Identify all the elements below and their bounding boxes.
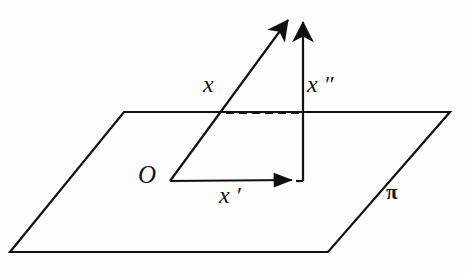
vector-x-prime-label: x ′: [219, 183, 241, 207]
vector-x-double-prime-label: x ″: [307, 72, 334, 96]
geometry-figure: x x ″ x ′ O π: [0, 0, 466, 274]
vector-x-line: [170, 20, 288, 181]
origin-label: O: [138, 162, 156, 187]
plane-pi-label: π: [386, 182, 398, 203]
vector-x-label: x: [203, 72, 214, 96]
vector-x-prime-line: [170, 180, 292, 181]
figure-canvas: [0, 0, 466, 274]
